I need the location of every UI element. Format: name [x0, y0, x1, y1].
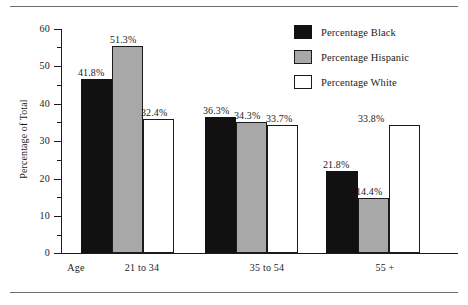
bar-label-black-21-to-34: 41.8%: [78, 68, 104, 78]
bar-label-black-35-to-54: 36.3%: [203, 106, 229, 116]
y-tick-label-20: 20: [10, 174, 50, 184]
bar-label-white-35-to-54: 33.7%: [266, 114, 292, 124]
bar-white-21-to-34[interactable]: [143, 119, 174, 253]
y-tick-50: [54, 66, 61, 67]
bar-label-hispanic-21-to-34: 51.3%: [110, 35, 136, 45]
y-tick-label-60: 60: [10, 24, 50, 34]
top-horizontal-rule: [10, 6, 458, 7]
x-label-21-to-34: 21 to 34: [97, 262, 187, 274]
legend-item-white[interactable]: Percentage White: [294, 72, 397, 92]
bar-hispanic-55-plus[interactable]: [358, 198, 389, 253]
legend-label-white: Percentage White: [321, 77, 397, 88]
y-tick-60: [54, 29, 61, 30]
y-tick-label-30: 30: [10, 136, 50, 146]
legend-item-black[interactable]: Percentage Black: [294, 22, 396, 42]
bar-white-55-plus[interactable]: [389, 125, 420, 253]
bar-white-35-to-54[interactable]: [267, 125, 298, 253]
legend-label-hispanic: Percentage Hispanic: [321, 52, 409, 63]
bar-hispanic-21-to-34[interactable]: [112, 46, 143, 253]
bar-label-white-55-plus: 33.8%: [358, 114, 384, 124]
y-tick-label-10: 10: [10, 211, 50, 221]
legend-swatch-black-icon: [294, 25, 312, 39]
bar-label-hispanic-35-to-54: 34.3%: [234, 111, 260, 121]
bar-label-white-21-to-34: 32.4%: [141, 108, 167, 118]
legend-label-black: Percentage Black: [321, 27, 396, 38]
y-tick-10: [54, 216, 61, 217]
y-tick-label-50: 50: [10, 61, 50, 71]
x-label-35-to-54: 35 to 54: [222, 262, 312, 274]
bar-black-35-to-54[interactable]: [205, 117, 236, 253]
y-tick-40: [54, 104, 61, 105]
legend-swatch-white-icon: [294, 75, 312, 89]
legend-item-hispanic[interactable]: Percentage Hispanic: [294, 47, 409, 67]
y-tick-30: [54, 141, 61, 142]
y-tick-label-40: 40: [10, 99, 50, 109]
y-tick-0: [54, 253, 61, 254]
x-axis-line: [56, 253, 458, 254]
bar-label-black-55-plus: 21.8%: [323, 160, 349, 170]
y-tick-label-0: 0: [10, 248, 50, 258]
x-label-55-plus: 55 +: [340, 262, 430, 274]
legend-swatch-hispanic-icon: [294, 50, 312, 64]
bar-label-hispanic-55-plus: 14.4%: [356, 187, 382, 197]
bar-chart-figure: Percentage of Total 0 10 20 30 40 50 60 …: [0, 0, 468, 305]
bottom-horizontal-rule: [10, 292, 458, 293]
bar-hispanic-35-to-54[interactable]: [236, 122, 267, 253]
bar-black-55-plus[interactable]: [326, 171, 358, 253]
bar-black-21-to-34[interactable]: [81, 79, 112, 253]
y-tick-20: [54, 179, 61, 180]
